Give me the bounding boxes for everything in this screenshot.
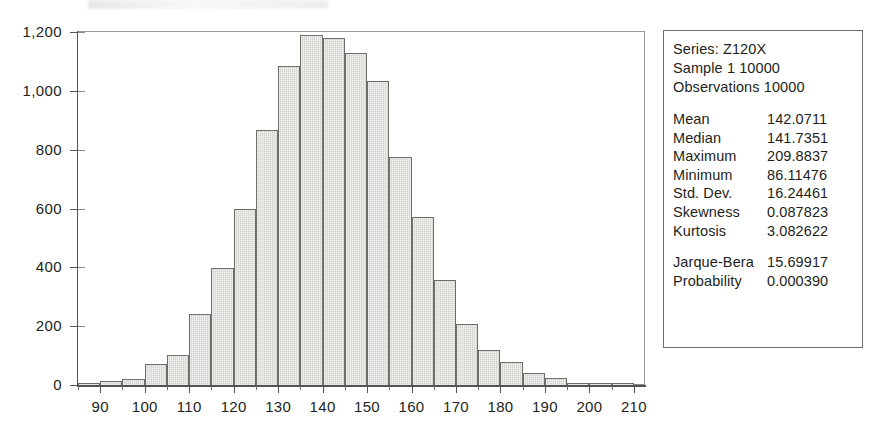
x-axis-tick-label: 180	[477, 398, 523, 415]
y-axis-tick-mark	[70, 91, 78, 92]
histogram-bar	[278, 66, 300, 385]
stat-label: Mean	[673, 110, 767, 129]
x-axis-tick-mark	[234, 386, 235, 393]
histogram-bar	[478, 350, 500, 385]
x-axis-tick-mark	[500, 386, 501, 393]
x-axis-tick-mark	[634, 386, 635, 393]
histogram-bar	[189, 314, 211, 385]
y-axis-inner-tick	[78, 209, 85, 210]
y-axis-inner-tick	[78, 150, 85, 151]
panel-spacer-2	[673, 240, 862, 253]
histogram-bar	[100, 381, 122, 385]
y-axis-inner-tick	[78, 326, 85, 327]
x-axis-tick-label: 150	[344, 398, 390, 415]
stat-value: 3.082622	[767, 222, 862, 241]
stat-label: Jarque-Bera	[673, 253, 767, 272]
histogram-bar	[145, 364, 167, 385]
panel-spacer-1	[673, 97, 862, 110]
x-axis-tick-mark	[278, 386, 279, 393]
x-axis-tick-mark	[367, 386, 368, 393]
x-axis-minor-tick	[389, 386, 390, 390]
chart-area: 02004006008001,0001,200 9010011012013014…	[0, 0, 660, 440]
x-axis-tick-label: 210	[611, 398, 657, 415]
x-axis-tick-label: 170	[433, 398, 479, 415]
histogram-bar	[456, 324, 478, 385]
stat-label: Std. Dev.	[673, 184, 767, 203]
y-axis-tick-mark	[70, 267, 78, 268]
x-axis-minor-tick	[256, 386, 257, 390]
x-axis-tick-mark	[145, 386, 146, 393]
y-axis-tick-mark	[70, 209, 78, 210]
normality-test-list: Jarque-Bera15.69917Probability0.000390	[673, 253, 862, 290]
histogram-bar	[523, 373, 545, 385]
stat-value: 15.69917	[767, 253, 862, 272]
x-axis-tick-mark	[100, 386, 101, 393]
x-axis-minor-tick	[211, 386, 212, 390]
histogram-bar	[300, 35, 322, 385]
histogram-figure: 02004006008001,0001,200 9010011012013014…	[0, 0, 881, 440]
stat-value: 142.0711	[767, 110, 862, 129]
stat-row: Minimum86.11476	[673, 166, 862, 185]
histogram-bar	[323, 38, 345, 385]
descriptive-stats-list: Mean142.0711Median141.7351Maximum209.883…	[673, 110, 862, 240]
stat-label: Maximum	[673, 147, 767, 166]
stat-label: Minimum	[673, 166, 767, 185]
histogram-bar	[167, 355, 189, 385]
stat-value: 209.8837	[767, 147, 862, 166]
y-axis-tick-label: 600	[0, 200, 62, 217]
histogram-bar	[345, 53, 367, 385]
stat-label: Skewness	[673, 203, 767, 222]
x-axis-minor-tick	[434, 386, 435, 390]
stat-row: Skewness0.087823	[673, 203, 862, 222]
x-axis-tick-mark	[189, 386, 190, 393]
histogram-bar	[389, 157, 411, 385]
histogram-bar	[434, 280, 456, 385]
x-axis-minor-tick	[478, 386, 479, 390]
y-axis-tick-mark	[70, 326, 78, 327]
y-axis-tick-mark	[70, 385, 78, 386]
x-axis-tick-label: 200	[566, 398, 612, 415]
histogram-bar	[256, 130, 278, 385]
stat-row: Mean142.0711	[673, 110, 862, 129]
x-axis-minor-tick	[167, 386, 168, 390]
y-axis-tick-label: 200	[0, 317, 62, 334]
y-axis-tick-label: 0	[0, 376, 62, 393]
x-axis-tick-label: 90	[77, 398, 123, 415]
x-axis-minor-tick	[78, 386, 79, 390]
series-name-line: Series: Z120X	[673, 40, 862, 59]
histogram-bar	[122, 379, 144, 385]
y-axis-tick-mark	[70, 32, 78, 33]
x-axis-minor-tick	[300, 386, 301, 390]
stat-label: Probability	[673, 272, 767, 291]
histogram-bar	[545, 378, 567, 385]
y-axis-inner-tick	[78, 267, 85, 268]
x-axis-tick-label: 160	[389, 398, 435, 415]
y-axis-tick-label: 1,200	[0, 23, 62, 40]
y-axis-tick-label: 1,000	[0, 82, 62, 99]
stat-row: Std. Dev.16.24461	[673, 184, 862, 203]
sample-range-line: Sample 1 10000	[673, 59, 862, 78]
statistics-panel: Series: Z120X Sample 1 10000 Observation…	[663, 30, 863, 348]
observations-line: Observations 10000	[673, 78, 862, 97]
y-axis-inner-tick	[78, 91, 85, 92]
x-axis-minor-tick	[122, 386, 123, 390]
stat-value: 0.000390	[767, 272, 862, 291]
x-axis-line	[77, 385, 646, 387]
y-axis-inner-tick	[78, 32, 85, 33]
x-axis-tick-mark	[456, 386, 457, 393]
stat-row: Kurtosis3.082622	[673, 222, 862, 241]
x-axis-tick-mark	[589, 386, 590, 393]
y-axis-tick-label: 800	[0, 141, 62, 158]
histogram-bar	[500, 362, 522, 385]
histogram-bar	[589, 383, 611, 385]
histogram-bars	[78, 32, 645, 385]
x-axis-minor-tick	[523, 386, 524, 390]
histogram-bar	[234, 209, 256, 386]
x-axis-tick-label: 190	[522, 398, 568, 415]
histogram-bar	[78, 383, 100, 385]
histogram-bar	[567, 383, 589, 385]
histogram-bar	[367, 81, 389, 385]
x-axis-tick-label: 130	[255, 398, 301, 415]
stat-value: 86.11476	[767, 166, 862, 185]
test-row: Probability0.000390	[673, 272, 862, 291]
